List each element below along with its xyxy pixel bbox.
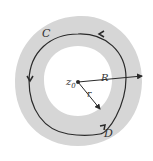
center-point [76,80,80,84]
diagram-canvas [0,0,153,161]
label-inner-radius: r [87,90,91,99]
label-d: D [104,128,113,139]
label-outer-radius: R [101,73,109,83]
annulus-diagram: C D z0 R r [0,0,153,161]
label-z0: z0 [66,77,76,90]
label-c: C [42,28,50,39]
